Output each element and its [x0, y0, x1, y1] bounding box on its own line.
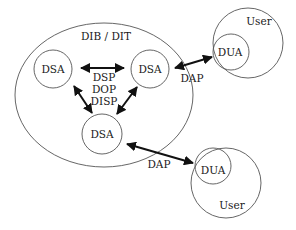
arrow-dsa-right-bottom	[117, 87, 137, 114]
x500-directory-diagram: DIB / DIT DSA DSA DSA DSP DOP DISP User	[0, 0, 296, 230]
directory-label: DIB / DIT	[81, 30, 131, 42]
svg-text:DSA: DSA	[90, 128, 114, 140]
protocol-label-disp: DISP	[91, 95, 118, 107]
dua-node-top: DUA	[213, 34, 249, 70]
svg-text:DSA: DSA	[138, 63, 162, 75]
dsa-node-right: DSA	[131, 50, 169, 88]
arrow-dsa-left-bottom	[74, 86, 92, 113]
svg-text:DUA: DUA	[201, 164, 226, 176]
svg-text:DSA: DSA	[41, 63, 65, 75]
dua-node-bottom: DUA	[195, 148, 231, 184]
protocol-label-dap-top: DAP	[180, 72, 203, 84]
dsa-node-left: DSA	[34, 50, 72, 88]
protocol-label-dap-bottom: DAP	[147, 158, 170, 170]
user-bottom: User	[191, 148, 261, 218]
svg-text:User: User	[246, 15, 272, 27]
user-top: User	[213, 8, 283, 78]
svg-text:User: User	[219, 199, 245, 211]
protocol-label-dop: DOP	[92, 83, 116, 95]
svg-text:DUA: DUA	[218, 46, 243, 58]
protocol-label-dsp: DSP	[93, 71, 116, 83]
diagram-svg: DIB / DIT DSA DSA DSA DSP DOP DISP User	[0, 0, 296, 230]
dsa-node-bottom: DSA	[82, 114, 122, 154]
